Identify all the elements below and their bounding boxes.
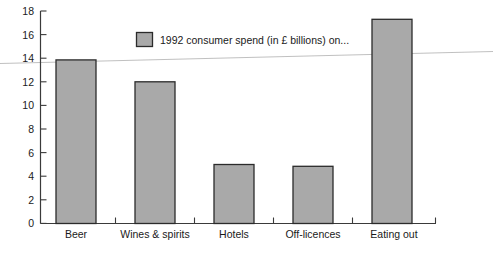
y-tick-label: 14 xyxy=(22,52,34,64)
bar-chart: 18 16 14 12 10 8 6 4 2 0 xyxy=(0,0,493,255)
y-axis-ticks xyxy=(41,11,47,223)
bar-wines-spirits xyxy=(135,82,175,224)
x-axis-category-labels: Beer Wines & spirits Hotels Off-licences… xyxy=(65,228,418,240)
y-tick-label: 16 xyxy=(22,29,34,41)
y-tick-label: 4 xyxy=(28,170,34,182)
y-tick-label: 18 xyxy=(22,5,34,17)
y-tick-label: 8 xyxy=(28,123,34,135)
bar-series xyxy=(56,19,412,223)
x-category-label: Off-licences xyxy=(285,228,340,240)
chart-canvas: 18 16 14 12 10 8 6 4 2 0 xyxy=(0,0,493,255)
chart-legend: 1992 consumer spend (in £ billions) on..… xyxy=(137,33,350,47)
bar-off-licences xyxy=(293,166,333,223)
y-tick-label: 6 xyxy=(28,147,34,159)
y-tick-label: 10 xyxy=(22,99,34,111)
x-category-label: Beer xyxy=(65,228,88,240)
legend-swatch xyxy=(137,33,153,47)
x-category-label: Wines & spirits xyxy=(120,228,189,240)
bar-eating-out xyxy=(372,19,412,223)
y-axis-tick-labels: 18 16 14 12 10 8 6 4 2 0 xyxy=(22,5,34,229)
bar-hotels xyxy=(214,165,254,224)
x-category-label: Hotels xyxy=(219,228,249,240)
legend-label: 1992 consumer spend (in £ billions) on..… xyxy=(160,34,349,46)
y-tick-label: 0 xyxy=(28,217,34,229)
bar-beer xyxy=(56,60,96,224)
x-category-label: Eating out xyxy=(370,228,417,240)
y-tick-label: 2 xyxy=(28,194,34,206)
y-tick-label: 12 xyxy=(22,76,34,88)
